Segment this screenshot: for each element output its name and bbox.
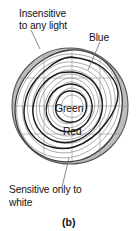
annotation-red: Red — [63, 126, 82, 137]
annotation-sensitive-line1: Sensitive only to — [9, 184, 82, 195]
annotation-insensitive-line1: Insensitive — [19, 8, 66, 19]
annotation-blue: Blue — [89, 32, 109, 43]
annotation-insensitive-line2: to any light — [19, 20, 67, 31]
annotation-green: Green — [55, 103, 83, 114]
visual-field-diagram: Insensitive to any light Blue Green Red … — [0, 0, 139, 231]
figure-caption: (b) — [62, 216, 75, 228]
figure-panel: Insensitive to any light Blue Green Red … — [0, 0, 139, 231]
annotation-sensitive-line2: white — [8, 197, 33, 208]
leader-insensitive — [31, 30, 40, 49]
